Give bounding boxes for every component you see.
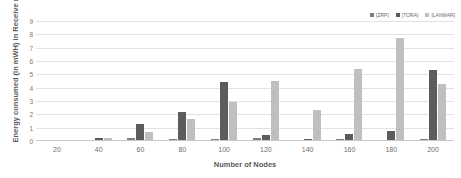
bar: [396, 38, 404, 141]
bar: [229, 102, 237, 141]
x-tick-label: 200: [412, 145, 454, 157]
bar: [187, 119, 195, 141]
bar: [354, 69, 362, 141]
bar-group: [161, 21, 203, 141]
bar-group: [36, 21, 78, 141]
y-tick-label: 4: [19, 84, 33, 91]
y-tick-label: 3: [19, 97, 33, 104]
bar: [313, 110, 321, 141]
x-tick-label: 100: [203, 145, 245, 157]
legend-label-zrp: [ZRP]: [376, 12, 389, 18]
x-tick-label: 60: [120, 145, 162, 157]
x-tick-label: 180: [370, 145, 412, 157]
y-tick-label: 2: [19, 111, 33, 118]
legend-label-tora: [TORA]: [402, 12, 419, 18]
x-axis-title: Number of Nodes: [36, 160, 454, 169]
bar-group: [120, 21, 162, 141]
x-tick-label: 140: [287, 145, 329, 157]
plot-area: [36, 21, 454, 141]
x-tick-label: 40: [78, 145, 120, 157]
y-tick-label: 8: [19, 31, 33, 38]
y-tick-label: 0: [19, 138, 33, 145]
legend-label-lanmar: [LANMAR]: [431, 12, 455, 18]
bar-groups: [36, 21, 454, 141]
legend-item-zrp: [ZRP]: [370, 12, 389, 18]
bar-group: [412, 21, 454, 141]
legend-swatch-tora: [396, 13, 400, 17]
bar-group: [203, 21, 245, 141]
legend-item-tora: [TORA]: [396, 12, 419, 18]
bar-group: [329, 21, 371, 141]
legend-item-lanmar: [LANMAR]: [425, 12, 455, 18]
y-tick-label: 1: [19, 124, 33, 131]
x-tick-label: 120: [245, 145, 287, 157]
energy-consumption-bar-chart: [ZRP] [TORA] [LANMAR] Energy consumed (i…: [0, 0, 461, 178]
x-tick-label: 20: [36, 145, 78, 157]
legend-swatch-zrp: [370, 13, 374, 17]
x-axis-line: [36, 140, 454, 141]
bar-group: [370, 21, 412, 141]
chart-legend: [ZRP] [TORA] [LANMAR]: [370, 9, 455, 20]
bar: [136, 124, 144, 141]
bar: [271, 81, 279, 141]
y-tick-label: 6: [19, 57, 33, 64]
bar-group: [78, 21, 120, 141]
bar: [438, 84, 446, 141]
x-tick-label: 160: [329, 145, 371, 157]
y-tick-label: 7: [19, 44, 33, 51]
bar-group: [287, 21, 329, 141]
x-tick-label: 80: [161, 145, 203, 157]
x-axis-tick-labels: 20406080100120140160180200: [36, 145, 454, 157]
bar: [178, 112, 186, 141]
legend-swatch-lanmar: [425, 13, 429, 17]
bar: [429, 70, 437, 141]
y-axis-tick-labels: 0123456789: [18, 21, 36, 141]
y-tick-label: 9: [19, 18, 33, 25]
y-tick-label: 5: [19, 71, 33, 78]
bar: [220, 82, 228, 141]
bar-group: [245, 21, 287, 141]
